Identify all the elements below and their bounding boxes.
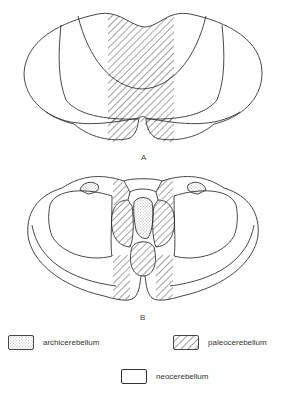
legend-item-paleocerebellum: paleocerebellum: [173, 335, 267, 350]
legend-label: paleocerebellum: [208, 338, 267, 347]
panel-a-label: A: [141, 153, 146, 162]
panel-b-label: B: [140, 313, 145, 322]
hatched-swatch-icon: [173, 335, 199, 350]
blank-swatch-icon: [121, 369, 147, 384]
legend-label: neocerebellum: [156, 372, 208, 381]
legend-item-neocerebellum: neocerebellum: [121, 369, 208, 384]
stippled-swatch-icon: [8, 335, 34, 350]
figure-b: [28, 177, 258, 301]
legend-item-archicerebellum: archicerebellum: [8, 335, 99, 350]
legend-label: archicerebellum: [43, 338, 99, 347]
figure-a: [24, 10, 262, 142]
